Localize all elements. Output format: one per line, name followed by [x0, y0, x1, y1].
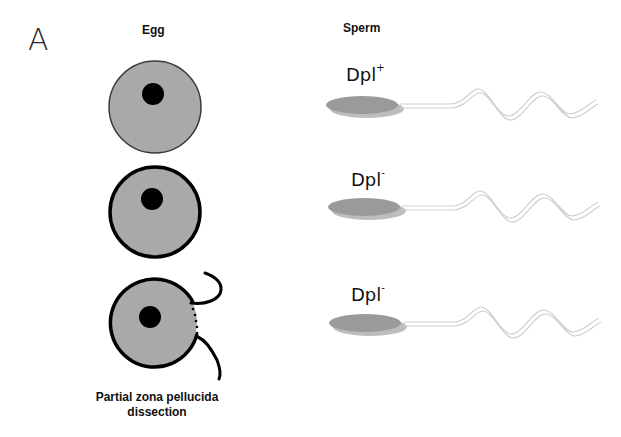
- nucleus-icon: [139, 306, 161, 328]
- egg-row-2: [110, 167, 200, 257]
- sperm-head-icon: [329, 314, 401, 332]
- sperm-genotype-label-3: Dpl-: [351, 284, 385, 305]
- sperm-row-1: [326, 89, 598, 120]
- sperm-row-2: [328, 191, 600, 222]
- zona-flap-icon: [198, 337, 220, 379]
- zona-flap-icon: [191, 273, 221, 303]
- sperm-row-3: [329, 307, 601, 338]
- sperm-genotype-label-1: Dpl+: [346, 64, 385, 85]
- sperm-tail-icon: [402, 191, 598, 218]
- egg-row-1: [109, 61, 201, 153]
- sperm-head-icon: [326, 96, 398, 114]
- dissection-caption: Partial zona pellucida dissection: [72, 390, 242, 420]
- egg-cell-icon: [109, 61, 201, 153]
- nucleus-icon: [141, 188, 163, 210]
- sperm-genotype-label-2: Dpl-: [351, 169, 385, 190]
- nucleus-icon: [142, 83, 164, 105]
- diagram-artwork: [0, 0, 621, 437]
- egg-cell-icon: [110, 167, 200, 257]
- sperm-tail-icon: [400, 89, 596, 116]
- sperm-tail-icon: [403, 307, 599, 334]
- sperm-head-icon: [328, 198, 400, 216]
- egg-row-3: [109, 273, 221, 379]
